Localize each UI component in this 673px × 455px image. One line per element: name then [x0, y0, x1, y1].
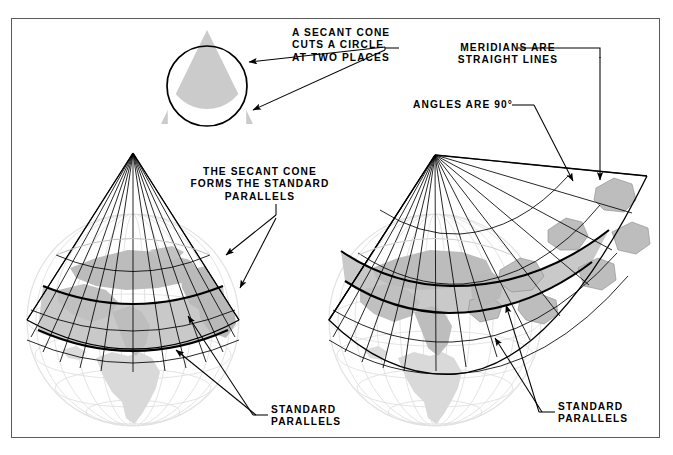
standard-parallels-label-left: STANDARD PARALLELS — [271, 404, 341, 429]
secant-forms-label: THE SECANT CONE FORMS THE STANDARD PARAL… — [160, 166, 360, 203]
diagram-canvas: A SECANT CONE CUTS A CIRCLE AT TWO PLACE… — [0, 0, 673, 455]
cone-circle-cross-section — [161, 30, 253, 128]
standard-parallels-label-right: STANDARD PARALLELS — [558, 401, 628, 426]
meridians-label: MERIDIANS ARE STRAIGHT LINES — [418, 42, 598, 67]
meridians-callout-arrow — [518, 48, 600, 180]
secant-cone-label: A SECANT CONE CUTS A CIRCLE AT TWO PLACE… — [292, 27, 390, 64]
secant-forms-callout-arrows — [226, 204, 276, 288]
angles-callout-arrow — [512, 105, 573, 181]
diagram-artwork — [0, 0, 673, 455]
unrolled-cone-globe-right — [329, 155, 650, 426]
angles-label: ANGLES ARE 90° — [413, 99, 513, 111]
